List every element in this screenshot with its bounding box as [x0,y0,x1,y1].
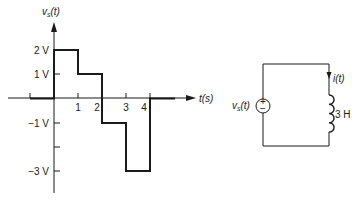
y-tick-label-neg3: −3 V [28,166,49,177]
x-tick-label-4: 4 [141,102,147,113]
x-axis-arrow-icon [186,95,196,101]
y-tick-label-neg1: −1 V [28,118,49,129]
inductor-label: 3 H [335,109,351,120]
y-axis-arrow-icon [51,22,57,32]
circuit [256,64,334,146]
current-label: i(t) [333,73,345,84]
voltage-waveform [30,50,175,171]
y-axis-label: vs(t) [42,6,60,18]
source-label: vs(t) [232,100,250,112]
y-tick-label-2: 2 V [34,45,49,56]
x-tick-label-3: 3 [123,102,129,113]
current-arrow-icon [327,72,332,79]
x-tick-label-1: 1 [75,102,81,113]
diagram-canvas: vs(t) t(s) 2 V 1 V −1 V −3 V 1 2 3 4 + −… [0,0,356,205]
x-axis-label: t(s) [199,93,213,104]
wire-bottom [263,113,329,146]
wire-top [263,64,329,99]
y-tick-label-1: 1 V [34,69,49,80]
source-minus-sign: − [260,103,266,114]
x-tick-label-2: 2 [94,102,100,113]
inductor-icon [329,95,334,132]
